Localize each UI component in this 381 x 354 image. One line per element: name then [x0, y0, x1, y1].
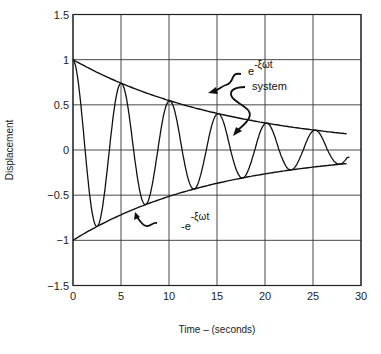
grid: [73, 15, 361, 286]
x-tick-label: 5: [118, 290, 124, 302]
system-arrow-icon: [231, 87, 250, 130]
x-tick-label: 15: [211, 290, 223, 302]
x-tick-label: 20: [259, 290, 271, 302]
system-label: system: [252, 80, 287, 92]
lower-envelope-arrow-icon: [137, 217, 157, 226]
y-tick-label: 0: [63, 144, 69, 156]
y-tick-label: 1.5: [54, 9, 69, 21]
y-axis-ticks: 1.510.50−0.5−1−1.5: [47, 9, 69, 292]
lower-envelope-base: -e: [181, 220, 191, 232]
damped-oscillation-chart: 1.510.50−0.5−1−1.5 051015202530 e-ξωt sy…: [0, 0, 381, 354]
x-tick-label: 0: [70, 290, 76, 302]
lower-envelope-superscript: -ξωt: [191, 211, 210, 223]
lower-envelope-line: [73, 164, 347, 241]
upper-envelope-superscript: -ξωt: [254, 59, 273, 71]
upper-envelope-arrowhead-icon: [208, 87, 218, 94]
x-axis-label: Time – (seconds): [179, 324, 256, 335]
x-axis-ticks: 051015202530: [70, 290, 367, 302]
y-tick-label: 0.5: [54, 99, 69, 111]
y-tick-label: −0.5: [47, 189, 69, 201]
y-tick-label: −1: [56, 234, 69, 246]
y-axis-label: Displacement: [4, 119, 15, 180]
system-response-line: [73, 60, 350, 227]
x-tick-label: 10: [163, 290, 175, 302]
y-tick-label: 1: [63, 54, 69, 66]
x-tick-label: 25: [307, 290, 319, 302]
lower-envelope-label: -e-ξωt: [181, 211, 209, 232]
x-tick-label: 30: [355, 290, 367, 302]
upper-envelope-line: [73, 60, 347, 134]
upper-envelope-label: e-ξωt: [248, 59, 273, 77]
y-tick-label: −1.5: [47, 280, 69, 292]
